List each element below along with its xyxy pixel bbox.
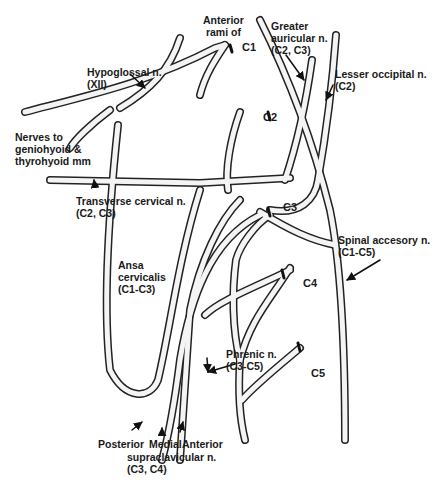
label-hypoglossal: Hypoglossal n. (XII) — [87, 66, 162, 90]
label-c2: C2 — [263, 111, 277, 123]
label-spinal-accessory: Spinal accesory n. (C1-C5) — [338, 234, 430, 258]
label-c1: C1 — [242, 41, 256, 53]
label-c5: C5 — [311, 367, 325, 379]
label-nerves-to-geniohyoid: Nerves to geniohyoid & thyrohyoid mm — [15, 131, 91, 167]
label-medial: Medial — [149, 438, 182, 450]
label-posterior: Posterior — [98, 438, 144, 450]
label-anterior: Anterior — [182, 438, 223, 450]
label-c3: C3 — [283, 201, 297, 213]
label-phrenic: Phrenic n. (C3-C5) — [226, 348, 277, 372]
label-c4: C4 — [303, 277, 317, 289]
label-anterior-rami: Anterior rami of — [203, 14, 244, 38]
label-greater-auricular: Greater auricular n. (C2, C3) — [271, 20, 328, 56]
label-transverse-cervical: Transverse cervical n. (C2, C3) — [76, 195, 186, 219]
label-lesser-occipital: Lesser occipital n. (C2) — [335, 68, 427, 92]
label-supraclavicular: supraclavicular n. (C3, C4) — [127, 451, 216, 475]
label-ansa-cervicalis: Ansa cervicalis (C1-C3) — [118, 259, 166, 295]
